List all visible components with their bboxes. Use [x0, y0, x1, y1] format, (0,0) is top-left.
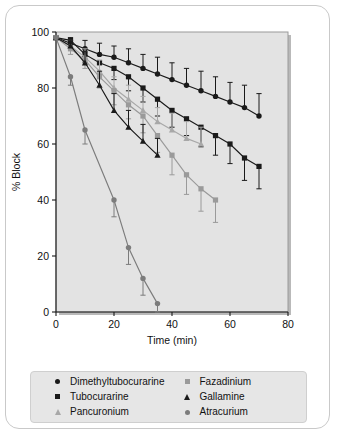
legend-label: Fazadinium	[200, 377, 252, 387]
data-point	[198, 88, 203, 93]
square-marker-icon	[53, 392, 63, 402]
y-tick-label: 80	[37, 82, 49, 94]
legend-label: Tubocurarine	[70, 392, 129, 402]
data-point	[68, 74, 73, 79]
y-axis-title: % Block	[10, 152, 22, 191]
data-point	[213, 197, 218, 202]
data-point	[213, 94, 218, 99]
legend-label: Gallamine	[200, 392, 245, 402]
data-point	[155, 301, 160, 306]
data-point	[169, 108, 174, 113]
data-point	[198, 186, 203, 191]
data-point	[140, 66, 145, 71]
legend-item-pancuronium: Pancuronium	[31, 407, 169, 417]
x-tick-label: 60	[224, 318, 236, 330]
data-point	[184, 172, 189, 177]
data-point	[227, 99, 232, 104]
legend-item-fazadinium: Fazadinium	[169, 377, 307, 387]
data-point	[227, 141, 232, 146]
data-point	[53, 35, 58, 40]
data-point	[242, 155, 247, 160]
plot-background	[56, 32, 291, 315]
data-point	[126, 74, 131, 79]
y-tick-label: 40	[37, 194, 49, 206]
data-point	[111, 88, 116, 93]
legend-label: Pancuronium	[70, 407, 129, 417]
data-point	[126, 60, 131, 65]
data-point	[126, 245, 131, 250]
data-point	[82, 127, 87, 132]
data-point	[155, 71, 160, 76]
x-tick-label: 0	[53, 318, 59, 330]
data-point	[111, 66, 116, 71]
legend-item-dimethyltubocurarine: Dimethyltubocurarine	[31, 377, 169, 387]
circle-marker-icon	[53, 377, 63, 387]
chart-legend: DimethyltubocurarineFazadiniumTubocurari…	[30, 371, 307, 423]
triangle-marker-icon	[183, 392, 193, 402]
x-tick-label: 40	[166, 318, 178, 330]
circle-marker-icon	[183, 407, 193, 417]
data-point	[242, 105, 247, 110]
data-point	[111, 197, 116, 202]
data-point	[155, 97, 160, 102]
y-tick-label: 0	[43, 306, 49, 318]
data-point	[140, 276, 145, 281]
legend-label: Dimethyltubocurarine	[70, 377, 165, 387]
triangle-marker-icon	[53, 407, 63, 417]
x-tick-label: 80	[282, 318, 294, 330]
legend-item-gallamine: Gallamine	[169, 392, 307, 402]
data-point	[155, 133, 160, 138]
square-marker-icon	[183, 377, 193, 387]
data-point	[256, 164, 261, 169]
x-tick-label: 20	[108, 318, 120, 330]
legend-label: Atracurium	[200, 407, 248, 417]
x-axis-title: Time (min)	[147, 334, 197, 346]
y-tick-label: 60	[37, 138, 49, 150]
data-point	[256, 113, 261, 118]
legend-item-tubocurarine: Tubocurarine	[31, 392, 169, 402]
data-point	[126, 102, 131, 107]
data-point	[184, 116, 189, 121]
data-point	[97, 52, 102, 57]
data-point	[184, 83, 189, 88]
y-tick-label: 20	[37, 250, 49, 262]
data-point	[213, 133, 218, 138]
legend-item-atracurium: Atracurium	[169, 407, 307, 417]
data-point	[169, 153, 174, 158]
data-point	[140, 113, 145, 118]
data-point	[140, 85, 145, 90]
data-point	[111, 55, 116, 60]
data-point	[169, 77, 174, 82]
y-tick-label: 100	[31, 26, 49, 38]
